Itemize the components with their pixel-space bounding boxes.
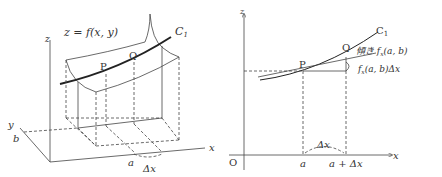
- tick-a-plus-delta: a + Δx: [329, 158, 363, 169]
- tick-a: a: [300, 158, 306, 169]
- y-axis-label: y: [7, 119, 14, 130]
- tick-b: b: [13, 133, 19, 144]
- left-figure-labels: z = f(x, y) C1 P Q z y b x a Δx: [7, 25, 215, 174]
- x-axis-label: x: [209, 142, 215, 153]
- increment-label: fx(a, b)Δx: [357, 64, 400, 75]
- delta-x-label: Δx: [316, 139, 330, 150]
- slope-label: 傾き fx(a, b): [356, 46, 408, 57]
- tick-a: a: [128, 157, 134, 168]
- point-p-label: P: [299, 59, 306, 70]
- point-p-label: P: [100, 61, 107, 72]
- curve-c1: [60, 37, 171, 84]
- right-figure-labels: z x O C1 Q P 傾き fx(a, b) fx(a, b)Δx a a …: [229, 7, 408, 169]
- curve-label: C1: [175, 25, 188, 39]
- point-q-label: Q: [342, 42, 350, 53]
- right-2d-figure: [229, 14, 392, 170]
- curve-label: C1: [376, 25, 388, 38]
- diagram-canvas: z = f(x, y) C1 P Q z y b x a Δx z x: [0, 0, 442, 177]
- delta-x-label: Δx: [142, 163, 156, 174]
- y-axis: [20, 128, 50, 162]
- z-axis-label: z: [44, 34, 50, 44]
- surface-label: z = f(x, y): [63, 26, 118, 39]
- origin-label: O: [229, 157, 237, 168]
- x-axis-label: x: [393, 150, 399, 161]
- z-axis-label: z: [239, 7, 245, 16]
- point-q-label: Q: [129, 50, 137, 61]
